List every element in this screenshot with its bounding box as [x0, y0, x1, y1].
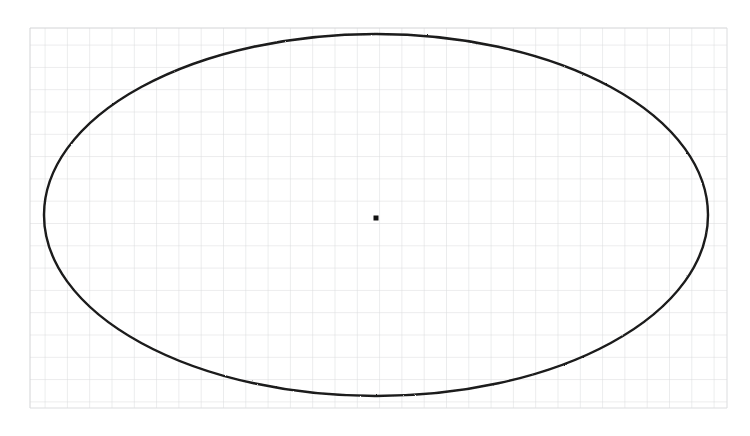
center-point: [374, 216, 379, 221]
center-point-marker: [374, 216, 379, 221]
geometry-figure-svg: [0, 0, 750, 436]
figure-canvas: [0, 0, 750, 436]
